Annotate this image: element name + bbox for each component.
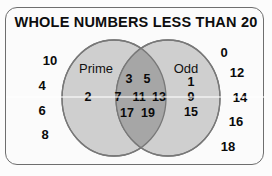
intersection-member: 19: [141, 106, 155, 120]
venn-diagram-figure: WHOLE NUMBERS LESS THAN 20 Prime Odd 2 1…: [0, 0, 272, 176]
outside-member: 16: [229, 114, 243, 129]
venn-labels: Prime Odd 2 1 9 15 3 5 7 11 13 17 19 10 …: [0, 0, 272, 176]
odd-only-member: 9: [188, 90, 195, 104]
outside-member: 0: [220, 45, 227, 60]
outside-member: 8: [41, 127, 48, 142]
intersection-member: 3: [126, 72, 133, 86]
prime-set-label: Prime: [79, 61, 113, 76]
intersection-member: 7: [115, 90, 122, 104]
odd-only-member: 1: [188, 75, 195, 89]
outside-member: 6: [38, 103, 45, 118]
intersection-member: 17: [120, 106, 134, 120]
prime-only-member: 2: [85, 90, 92, 104]
intersection-member: 5: [144, 72, 151, 86]
outside-member: 18: [221, 139, 235, 154]
outside-member: 4: [38, 78, 45, 93]
odd-set-label: Odd: [174, 61, 199, 76]
outside-member: 14: [233, 90, 247, 105]
outside-member: 12: [230, 65, 244, 80]
outside-member: 10: [43, 53, 57, 68]
intersection-member: 11: [132, 90, 145, 104]
intersection-member: 13: [152, 90, 166, 104]
odd-only-member: 15: [184, 105, 198, 119]
